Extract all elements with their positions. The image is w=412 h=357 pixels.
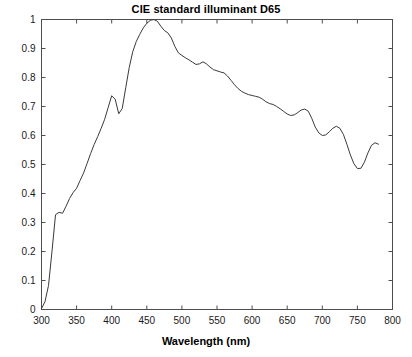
y-tick-label: 0.8: [22, 72, 36, 83]
x-tick-label: 400: [103, 315, 120, 326]
x-tick-label: 550: [209, 315, 226, 326]
x-axis-label: Wavelength (nm): [0, 334, 412, 348]
y-tick-label: 0.9: [22, 43, 36, 54]
y-tick-label: 0.4: [22, 188, 36, 199]
x-tick-label: 800: [384, 315, 401, 326]
y-tick-label: 0.3: [22, 217, 36, 228]
y-tick-label: 0.2: [22, 246, 36, 257]
y-tick-label: 0: [30, 304, 36, 315]
x-tick-label: 350: [68, 315, 85, 326]
x-tick-label: 750: [349, 315, 366, 326]
y-tick-label: 1: [30, 14, 36, 25]
data-line-series-0: [42, 20, 379, 309]
x-tick-label: 450: [138, 315, 155, 326]
x-tick-label: 300: [33, 315, 50, 326]
y-tick-label: 0.7: [22, 101, 36, 112]
x-tick-label: 650: [279, 315, 296, 326]
figure-container: CIE standard illuminant D65 300350400450…: [0, 0, 412, 357]
y-tick-label: 0.5: [22, 159, 36, 170]
axes-box: [42, 20, 393, 310]
y-tick-label: 0.6: [22, 130, 36, 141]
x-tick-label: 700: [314, 315, 331, 326]
plot-area: 30035040045050055060065070075080000.10.2…: [0, 0, 412, 357]
x-tick-label: 600: [244, 315, 261, 326]
x-tick-label: 500: [174, 315, 191, 326]
y-tick-label: 0.1: [22, 275, 36, 286]
